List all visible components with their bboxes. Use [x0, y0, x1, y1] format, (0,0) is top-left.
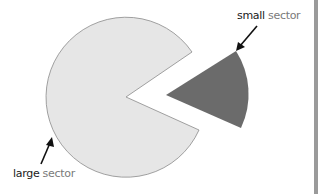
small-label-rest: sector	[265, 9, 301, 22]
small-label-bold: small	[237, 9, 265, 22]
page-edge	[314, 0, 318, 194]
sector-diagram: small sector large sector	[0, 0, 318, 194]
small-sector	[166, 51, 249, 128]
large-label-rest: sector	[39, 167, 75, 180]
large-label-bold: large	[13, 167, 39, 180]
diagram-svg	[0, 0, 318, 194]
large-sector-arrow	[41, 137, 54, 164]
large-sector-label: large sector	[13, 167, 75, 180]
small-sector-arrow	[236, 26, 257, 51]
small-sector-label: small sector	[237, 9, 300, 22]
